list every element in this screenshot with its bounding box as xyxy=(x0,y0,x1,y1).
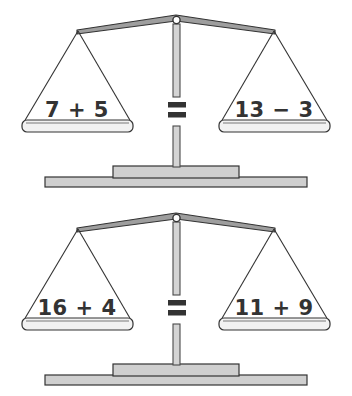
base-pedestal xyxy=(113,364,239,376)
base-pedestal xyxy=(113,166,239,178)
center-post-lower xyxy=(173,324,180,365)
equals-bar-top xyxy=(168,102,186,108)
center-post-upper xyxy=(173,24,180,97)
center-post-upper xyxy=(173,222,180,295)
pan-right-expression: 11 + 9 xyxy=(234,296,313,320)
balance-scale-top: 7 + 5 13 − 3 = xyxy=(0,0,352,198)
pan-right-expression: 13 − 3 xyxy=(234,98,313,122)
equals-sign: = xyxy=(168,102,186,118)
pan-left-expression: 7 + 5 xyxy=(45,98,109,122)
pan-left-expression: 16 + 4 xyxy=(37,296,116,320)
fulcrum-pivot-icon xyxy=(173,16,180,23)
balance-scale-bottom: 16 + 4 11 + 9 = xyxy=(0,198,352,396)
equals-sign: = xyxy=(168,300,186,316)
fulcrum-pivot-icon xyxy=(173,214,180,221)
center-post-lower xyxy=(173,126,180,167)
worksheet-canvas: 7 + 5 13 − 3 = xyxy=(0,0,352,396)
equals-bar-top xyxy=(168,300,186,306)
equals-bar-bottom xyxy=(168,112,186,118)
equals-bar-bottom xyxy=(168,310,186,316)
